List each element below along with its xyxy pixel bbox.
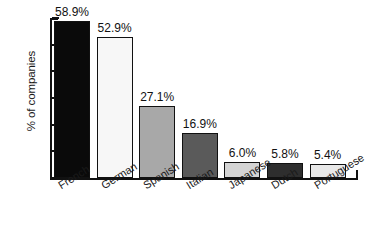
bar-value-label: 6.0%	[229, 146, 256, 160]
x-axis-end-tick	[356, 170, 358, 180]
y-axis-title: % of companies	[25, 11, 37, 171]
bar-chart: % of companies 0%10%20%30%40%50%60% 58.9…	[0, 0, 367, 228]
bar-value-label: 5.8%	[271, 147, 298, 161]
bar-value-label: 27.1%	[140, 90, 174, 104]
x-axis-category-labels: FrenchGermanSpanishItalianJapaneseDutchP…	[50, 181, 367, 228]
bar-value-label: 5.4%	[314, 148, 341, 162]
bar-value-label: 58.9%	[55, 5, 89, 19]
bar-german[interactable]	[97, 37, 133, 178]
plot-area: 58.9%52.9%27.1%16.9%6.0%5.8%5.4%	[50, 18, 360, 179]
bar-french[interactable]	[54, 21, 90, 178]
bar-value-label: 52.9%	[98, 21, 132, 35]
bar-value-label: 16.9%	[183, 117, 217, 131]
